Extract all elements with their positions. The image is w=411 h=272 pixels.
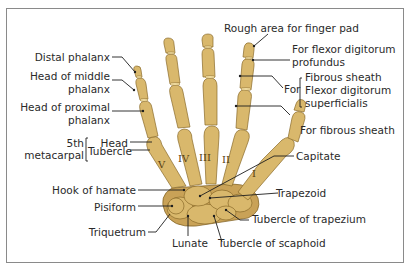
- label-pisiform: Pisiform: [40, 201, 136, 214]
- label-capitate: Capitate: [296, 150, 340, 163]
- label-trapezoid: Trapezoid: [276, 187, 326, 200]
- label-tubercle-of-scaphoid: Tubercle of scaphoid: [218, 237, 326, 250]
- numeral-ii: II: [222, 154, 230, 165]
- joints: [136, 46, 253, 102]
- label-hook-of-hamate: Hook of hamate: [40, 184, 136, 197]
- label-5th-metacarpal-line1: 5th: [20, 137, 84, 150]
- label-triquetrum: Triquetrum: [40, 226, 146, 239]
- label-flexor-superficialis-line2: superficialis: [305, 97, 368, 110]
- label-flexor-profundus-line2: profundus: [292, 56, 345, 69]
- label-for-fibrous-sheath: For fibrous sheath: [300, 124, 395, 137]
- label-for: For: [284, 83, 300, 96]
- label-flexor-superficialis-line1: Flexor digitorum: [305, 84, 391, 97]
- label-head-middle-phalanx-line2: phalanx: [14, 83, 110, 96]
- label-tubercle: Tubercle: [88, 145, 128, 158]
- label-flexor-profundus-line1: For flexor digitorum: [292, 43, 396, 56]
- label-head-proximal-phalanx-line2: phalanx: [10, 114, 110, 127]
- numeral-iv: IV: [178, 153, 190, 164]
- label-head-middle-phalanx-line1: Head of middle: [14, 70, 110, 83]
- label-lunate: Lunate: [172, 237, 208, 250]
- label-distal-phalanx: Distal phalanx: [14, 51, 110, 64]
- label-fibrous-sheath: Fibrous sheath: [305, 71, 382, 84]
- label-tubercle-of-trapezium: Tubercle of trapezium: [252, 213, 366, 226]
- numeral-i: I: [252, 168, 256, 179]
- label-5th-metacarpal-line2: metacarpal: [20, 149, 84, 162]
- phalanges: [134, 34, 306, 142]
- numeral-v: V: [157, 159, 166, 170]
- label-rough-area-finger-pad: Rough area for finger pad: [224, 22, 359, 35]
- label-head-proximal-phalanx-line1: Head of proximal: [10, 101, 110, 114]
- numeral-iii: III: [199, 152, 211, 163]
